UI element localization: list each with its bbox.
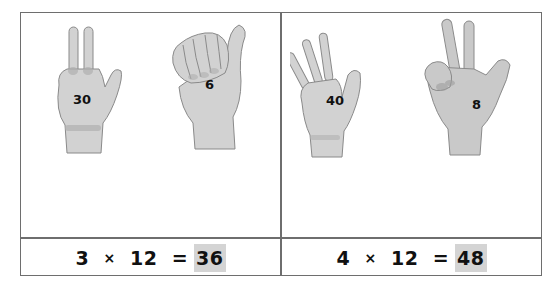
multiply-sign: × xyxy=(103,250,115,266)
hand-value-label: 6 xyxy=(205,77,214,92)
equals-sign: = xyxy=(433,247,449,269)
hand-value-label: 30 xyxy=(73,92,91,107)
equation-left-operand: 3 xyxy=(76,247,90,269)
equation-answer: 36 xyxy=(194,244,225,272)
multiply-sign: × xyxy=(364,250,376,266)
hand-three-icon xyxy=(51,25,126,157)
equation-right-operand: 12 xyxy=(391,247,418,269)
equation-4-times-12: 4 × 12 = 48 xyxy=(282,239,541,276)
panel-4-times-12-illustration: 40 8 xyxy=(282,13,541,237)
hand-value-label: 8 xyxy=(472,97,481,112)
equation-answer: 48 xyxy=(455,244,486,272)
hand-two-thumb-icon xyxy=(420,17,520,157)
equation-left-operand: 4 xyxy=(337,247,351,269)
equals-sign: = xyxy=(172,247,188,269)
equation-right-operand: 12 xyxy=(130,247,157,269)
panel-3-times-12-illustration: 30 6 xyxy=(21,13,280,237)
multiplication-table: 30 6 xyxy=(20,12,542,276)
hand-value-label: 40 xyxy=(326,93,344,108)
equation-3-times-12: 3 × 12 = 36 xyxy=(21,239,280,276)
